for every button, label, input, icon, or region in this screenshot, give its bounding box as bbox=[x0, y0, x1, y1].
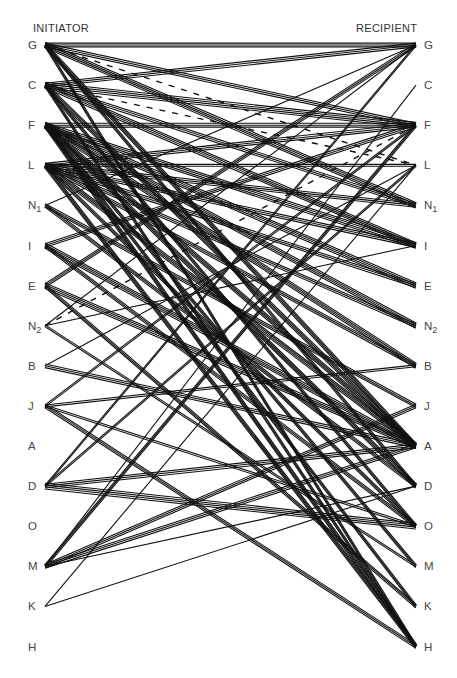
initiator-node-N1: N1 bbox=[28, 199, 41, 212]
recipient-node-B: B bbox=[424, 360, 432, 372]
recipient-node-M: M bbox=[424, 560, 434, 572]
edge-strand bbox=[45, 165, 416, 486]
initiator-node-G: G bbox=[28, 39, 37, 51]
recipient-node-C: C bbox=[424, 79, 432, 91]
initiator-node-A: A bbox=[28, 440, 36, 452]
recipient-node-N2: N2 bbox=[424, 320, 437, 333]
recipient-node-F: F bbox=[424, 119, 431, 131]
node-letter: J bbox=[28, 400, 34, 412]
initiator-node-C: C bbox=[28, 79, 36, 91]
initiator-node-N2: N2 bbox=[28, 320, 41, 333]
edge-strand bbox=[45, 124, 416, 365]
recipient-node-A: A bbox=[424, 440, 432, 452]
node-letter: I bbox=[424, 240, 427, 252]
node-letter: B bbox=[424, 360, 432, 372]
node-letter: J bbox=[424, 400, 430, 412]
initiator-node-I: I bbox=[28, 240, 31, 252]
initiator-node-O: O bbox=[28, 520, 37, 532]
edge-strand bbox=[45, 166, 416, 487]
node-letter: G bbox=[28, 39, 37, 51]
initiator-node-B: B bbox=[28, 360, 36, 372]
recipient-node-D: D bbox=[424, 480, 432, 492]
node-subscript: 1 bbox=[36, 204, 41, 214]
node-letter: G bbox=[424, 39, 433, 51]
initiator-node-E: E bbox=[28, 280, 36, 292]
edge-G-to-G bbox=[45, 43, 416, 47]
edge-canvas bbox=[0, 0, 457, 678]
edge-strand bbox=[45, 43, 416, 83]
recipient-node-N1: N1 bbox=[424, 199, 437, 212]
node-letter: E bbox=[28, 280, 36, 292]
edge-strand bbox=[45, 408, 416, 568]
edge-strand bbox=[45, 124, 416, 445]
edge-strand bbox=[45, 165, 416, 606]
node-letter: H bbox=[424, 641, 432, 653]
node-letter: F bbox=[28, 119, 35, 131]
initiator-node-J: J bbox=[28, 400, 34, 412]
edge-strand bbox=[45, 368, 416, 448]
node-letter: O bbox=[424, 520, 433, 532]
initiator-node-H: H bbox=[28, 641, 36, 653]
node-subscript: 2 bbox=[36, 325, 41, 335]
node-letter: E bbox=[424, 280, 432, 292]
initiator-node-K: K bbox=[28, 600, 36, 612]
edge-M-to-A bbox=[45, 444, 416, 568]
node-letter: M bbox=[424, 560, 434, 572]
edge-strand bbox=[45, 47, 416, 288]
node-letter: K bbox=[424, 600, 432, 612]
node-letter: O bbox=[28, 520, 37, 532]
node-letter: H bbox=[28, 641, 36, 653]
node-letter: D bbox=[424, 480, 432, 492]
node-letter: A bbox=[424, 440, 432, 452]
node-subscript: 2 bbox=[432, 325, 437, 335]
node-letter: C bbox=[424, 79, 432, 91]
edge-E-to-G bbox=[45, 43, 417, 287]
node-letter: A bbox=[28, 440, 36, 452]
node-subscript: 1 bbox=[432, 204, 437, 214]
recipient-node-O: O bbox=[424, 520, 433, 532]
initiator-node-L: L bbox=[28, 159, 34, 171]
recipient-node-H: H bbox=[424, 641, 432, 653]
recipient-node-E: E bbox=[424, 280, 432, 292]
recipient-node-G: G bbox=[424, 39, 433, 51]
initiator-node-D: D bbox=[28, 480, 36, 492]
node-letter: F bbox=[424, 119, 431, 131]
node-letter: D bbox=[28, 480, 36, 492]
initiator-node-F: F bbox=[28, 119, 35, 131]
node-letter: M bbox=[28, 560, 38, 572]
edge-strand bbox=[45, 483, 416, 523]
node-letter: L bbox=[28, 159, 34, 171]
recipient-node-J: J bbox=[424, 400, 430, 412]
initiator-node-M: M bbox=[28, 560, 38, 572]
edge-strand bbox=[45, 485, 416, 525]
recipient-node-K: K bbox=[424, 600, 432, 612]
node-letter: B bbox=[28, 360, 36, 372]
recipient-node-I: I bbox=[424, 240, 427, 252]
edge-K-to-L bbox=[45, 165, 416, 606]
recipient-node-L: L bbox=[424, 159, 430, 171]
node-letter: C bbox=[28, 79, 36, 91]
node-letter: I bbox=[28, 240, 31, 252]
edge-G-to-F bbox=[45, 43, 416, 127]
node-letter: K bbox=[28, 600, 36, 612]
edge-strand bbox=[45, 404, 416, 645]
node-letter: L bbox=[424, 159, 430, 171]
